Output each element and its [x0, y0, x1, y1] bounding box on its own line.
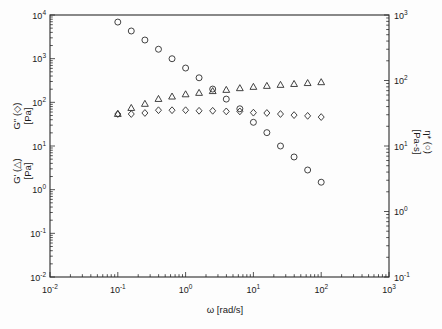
data-point-triangle [196, 89, 203, 95]
left-tick-label: 102 [32, 96, 46, 108]
data-point-circle [183, 65, 189, 71]
data-point-triangle [318, 79, 325, 85]
x-tick-label: 103 [382, 283, 396, 295]
x-tick-label: 10-2 [42, 283, 58, 295]
data-point-circle [237, 106, 243, 112]
data-point-diamond [305, 112, 311, 119]
left-tick-label: 103 [32, 52, 46, 64]
x-axis-title: ω [rad/s] [207, 304, 243, 315]
rheology-figure: 10-210-110010110210310-210-1100101102103… [0, 0, 442, 329]
left-axis: 10-210-1100101102103104 [30, 9, 55, 283]
right-tick-label: 103 [394, 9, 408, 21]
data-point-circle [318, 179, 324, 185]
data-point-diamond [277, 111, 283, 118]
data-point-circle [115, 19, 121, 25]
x-axis: 10-210-1100101102103 [42, 272, 396, 295]
data-point-diamond [223, 108, 229, 115]
left-tick-label: 10-1 [30, 227, 46, 239]
right-axis: 10-1100101102103 [384, 9, 410, 283]
data-point-diamond [210, 107, 216, 114]
data-point-triangle [141, 100, 148, 106]
data-point-diamond [142, 110, 148, 117]
right-tick-label: 10-1 [394, 271, 410, 283]
data-point-circle [264, 130, 270, 136]
data-point-circle [291, 154, 297, 160]
x-tick-label: 100 [179, 283, 193, 295]
data-point-circle [155, 46, 161, 52]
data-point-circle [277, 143, 283, 149]
right-axis-title-units: [Pa-s] [412, 130, 423, 155]
data-point-circle [305, 167, 311, 173]
x-tick-label: 101 [247, 283, 261, 295]
right-axis-title: η* (○) [Pa-s] [412, 130, 435, 155]
x-tick-label: 10-1 [110, 283, 126, 295]
data-point-diamond [196, 107, 202, 114]
data-point-triangle [128, 104, 135, 110]
data-point-triangle [182, 91, 189, 97]
series-loss-modulus [115, 107, 324, 121]
left-tick-label: 10-2 [30, 271, 46, 283]
left-axis-title-lower-symbol: G' (△) [11, 158, 22, 183]
left-tick-label: 104 [32, 9, 46, 21]
data-point-circle [142, 37, 148, 43]
right-axis-title-symbol: η* (○) [423, 130, 434, 155]
data-point-triangle [291, 80, 298, 86]
left-tick-label: 100 [32, 183, 46, 195]
data-point-triangle [277, 81, 284, 87]
chart-svg: 10-210-110010110210310-210-1100101102103… [0, 0, 442, 329]
left-axis-title-upper-units: [Pa] [22, 102, 33, 129]
data-point-diamond [264, 110, 270, 117]
data-point-circle [128, 28, 134, 34]
data-point-diamond [318, 114, 324, 121]
left-axis-title-lower: G' (△) [Pa] [11, 158, 34, 183]
data-point-triangle [223, 86, 230, 92]
x-tick-label: 102 [314, 283, 328, 295]
left-axis-title-lower-units: [Pa] [22, 158, 33, 183]
plot-frame [50, 15, 389, 277]
data-point-triangle [263, 82, 270, 88]
left-axis-title-upper-symbol: G" (◇) [11, 102, 22, 129]
data-point-diamond [183, 107, 189, 114]
data-point-diamond [250, 109, 256, 116]
data-point-diamond [128, 111, 134, 118]
right-tick-label: 100 [394, 205, 408, 217]
data-point-triangle [250, 83, 257, 89]
right-tick-label: 102 [394, 74, 408, 86]
data-point-circle [169, 56, 175, 62]
data-point-circle [250, 119, 256, 125]
data-point-diamond [169, 107, 175, 114]
data-point-diamond [155, 107, 161, 114]
data-point-triangle [304, 80, 311, 86]
left-tick-label: 101 [32, 140, 46, 152]
data-point-diamond [291, 112, 297, 119]
data-point-triangle [155, 95, 162, 101]
data-point-triangle [236, 85, 243, 91]
data-point-circle [196, 75, 202, 81]
data-point-triangle [169, 93, 176, 99]
right-tick-label: 101 [394, 140, 408, 152]
left-axis-title-upper: G" (◇) [Pa] [11, 102, 34, 129]
data-point-circle [223, 96, 229, 102]
